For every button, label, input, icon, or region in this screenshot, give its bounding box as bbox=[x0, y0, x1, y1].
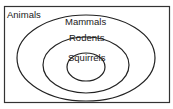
rodents-ellipse bbox=[43, 37, 129, 93]
rodents-label: Rodents bbox=[69, 33, 104, 43]
animals-label: Animals bbox=[7, 10, 41, 20]
mammals-label: Mammals bbox=[65, 17, 106, 27]
squirrels-label: Squirrels bbox=[68, 53, 106, 63]
